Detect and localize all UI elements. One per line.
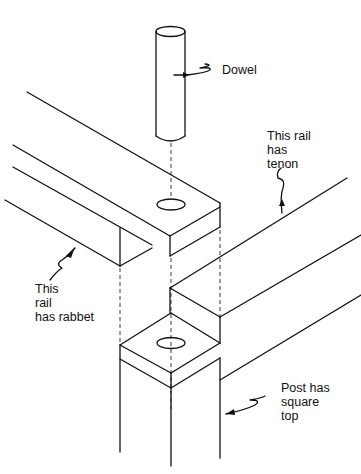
post-square-top (120, 313, 220, 466)
post-leader (226, 396, 265, 415)
rabbet-label-line-1: This (35, 282, 94, 296)
tenon-label-line-3: tenon (267, 157, 311, 171)
rabbet-leader (50, 247, 75, 280)
rabbet-label-line-3: has rabbet (35, 310, 94, 324)
rail-with-rabbet (5, 92, 220, 266)
post-label: Post has square top (281, 381, 330, 423)
dowel-label: Dowel (222, 63, 257, 77)
rabbet-rail-label: This rail has rabbet (35, 282, 94, 324)
post-label-line-2: square (281, 395, 330, 409)
tenon-label-line-1: This rail (267, 129, 311, 143)
post-label-line-1: Post has (281, 381, 330, 395)
tenon-rail-label: This rail has tenon (267, 129, 311, 171)
dowel (156, 27, 185, 142)
rabbet-label-line-2: rail (35, 296, 94, 310)
tenon-label-line-2: has (267, 143, 311, 157)
rail-with-tenon (170, 178, 361, 380)
post-label-line-3: top (281, 409, 330, 423)
tenon-leader (277, 168, 285, 213)
dowel-leader (174, 64, 210, 78)
